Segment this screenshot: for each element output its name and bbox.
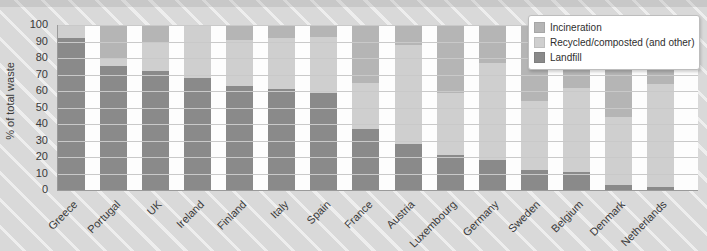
recycled-swatch-icon bbox=[534, 37, 545, 48]
legend-item-landfill: Landfill bbox=[534, 50, 694, 65]
x-tick-label: UK bbox=[145, 198, 164, 217]
gridline bbox=[58, 75, 698, 76]
x-tick-label: Italy bbox=[268, 198, 291, 221]
y-tick-label: 10 bbox=[0, 168, 48, 179]
y-tick-label: 90 bbox=[0, 36, 48, 47]
bar-segment-recycled bbox=[395, 45, 422, 144]
x-tick-label: Denmark bbox=[587, 198, 627, 238]
gridline bbox=[58, 124, 698, 125]
bar-segment-recycled bbox=[310, 37, 337, 93]
gridline bbox=[58, 141, 698, 142]
legend-label-recycled: Recycled/composted (and other) bbox=[550, 37, 695, 48]
x-tick-label: Germany bbox=[460, 198, 500, 238]
landfill-swatch-icon bbox=[534, 52, 545, 63]
bar-segment-incineration bbox=[310, 25, 337, 37]
bar-segment-recycled bbox=[647, 84, 674, 186]
x-tick-label: Finland bbox=[214, 198, 248, 232]
bar-segment-landfill bbox=[479, 160, 506, 190]
bar-segment-recycled bbox=[268, 38, 295, 89]
legend: Incineration Recycled/composted (and oth… bbox=[528, 15, 700, 70]
y-axis-title: % of total waste bbox=[4, 46, 16, 156]
bar-segment-recycled bbox=[100, 58, 127, 66]
x-tick-label: Greece bbox=[46, 198, 80, 232]
bar-segment-landfill bbox=[647, 187, 674, 190]
bar-segment-recycled bbox=[605, 117, 632, 185]
bar-segment-recycled bbox=[563, 88, 590, 172]
y-tick-label: 100 bbox=[0, 19, 48, 30]
bar-segment-recycled bbox=[479, 63, 506, 160]
legend-label-landfill: Landfill bbox=[550, 52, 582, 63]
gridline bbox=[58, 108, 698, 109]
gridline bbox=[58, 91, 698, 92]
gridline bbox=[58, 174, 698, 175]
bar-segment-landfill bbox=[352, 129, 379, 190]
bar-segment-recycled bbox=[58, 25, 85, 38]
bar-segment-recycled bbox=[184, 25, 211, 78]
incineration-swatch-icon bbox=[534, 22, 545, 33]
bar-segment-incineration bbox=[268, 25, 295, 38]
x-tick-label: Belgium bbox=[548, 198, 585, 235]
bar-segment-landfill bbox=[100, 66, 127, 190]
legend-item-recycled: Recycled/composted (and other) bbox=[534, 35, 694, 50]
bar-segment-landfill bbox=[605, 185, 632, 190]
bar-segment-landfill bbox=[563, 172, 590, 190]
bar-segment-landfill bbox=[395, 144, 422, 190]
bar-segment-incineration bbox=[142, 25, 169, 43]
legend-item-incineration: Incineration bbox=[534, 20, 694, 35]
legend-label-incineration: Incineration bbox=[550, 22, 602, 33]
x-tick-label: Portugal bbox=[85, 198, 122, 235]
y-tick-label: 0 bbox=[0, 184, 48, 195]
bar-segment-landfill bbox=[58, 38, 85, 190]
gridline bbox=[58, 157, 698, 158]
bar-segment-recycled bbox=[226, 40, 253, 86]
bar-segment-incineration bbox=[226, 25, 253, 40]
x-tick-label: Austria bbox=[384, 198, 417, 231]
x-tick-label: Sweden bbox=[506, 198, 543, 235]
stacked-bar-chart: 0102030405060708090100 % of total waste … bbox=[0, 0, 707, 251]
x-tick-label: Spain bbox=[304, 198, 332, 226]
bar-segment-recycled bbox=[352, 83, 379, 129]
x-tick-label: France bbox=[342, 198, 375, 231]
x-tick-label: Ireland bbox=[174, 198, 206, 230]
bar-segment-landfill bbox=[142, 71, 169, 190]
bar-segment-recycled bbox=[521, 101, 548, 170]
